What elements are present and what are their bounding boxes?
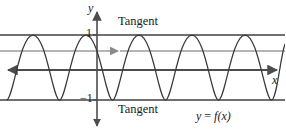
function-label-arg: (x)	[217, 109, 230, 123]
y-tick-label-negative-one: −1	[80, 92, 93, 104]
tangent-label-top: Tangent	[118, 15, 158, 28]
sine-curve	[7, 35, 286, 100]
x-axis-label: x	[272, 74, 277, 86]
function-label-equals: =	[201, 109, 214, 123]
tangent-sine-figure: Tangent Tangent 1 −1 y x y = f(x)	[0, 0, 285, 130]
y-axis-label: y	[88, 2, 93, 14]
tangent-label-bottom: Tangent	[118, 103, 158, 116]
y-tick-label-one: 1	[86, 27, 92, 39]
function-label: y = f(x)	[196, 110, 231, 122]
